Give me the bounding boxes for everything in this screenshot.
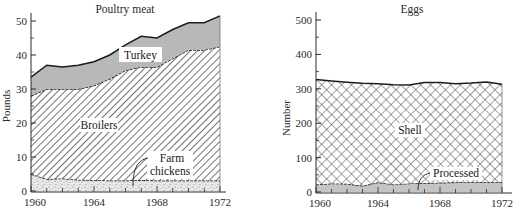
- y-tick-label: 100: [296, 152, 313, 164]
- x-tick-label: 1972: [209, 196, 231, 208]
- y-tick-label: 400: [296, 48, 313, 60]
- eggs-y-axis-label: Number: [280, 100, 292, 136]
- poultry-y-axis-label: Pounds: [0, 90, 12, 122]
- y-tick-label: 40: [16, 49, 28, 61]
- processed-label: Processed: [433, 167, 479, 179]
- y-tick-label: 500: [296, 14, 313, 26]
- y-tick-label: 50: [16, 15, 28, 27]
- poultry-meat-chart: 010203040501960196419681972 Poultry meat…: [0, 3, 231, 208]
- farm-chickens-label-line2: chickens: [150, 165, 191, 177]
- x-tick-label: 1964: [83, 196, 106, 208]
- x-tick-label: 1960: [309, 197, 332, 209]
- y-tick-label: 10: [16, 151, 28, 163]
- shell-label: Shell: [398, 124, 422, 136]
- farm-chickens-label-line1: Farm: [160, 152, 184, 164]
- x-tick-label: 1964: [367, 197, 390, 209]
- eggs-chart: 01002003004005001960196419681972 Eggs Nu…: [280, 3, 513, 209]
- y-tick-label: 300: [296, 83, 313, 95]
- x-tick-label: 1972: [491, 197, 513, 209]
- y-tick-label: 30: [16, 83, 28, 95]
- eggs-title: Eggs: [401, 3, 425, 16]
- turkey-label: Turkey: [124, 49, 157, 62]
- x-tick-label: 1960: [24, 196, 47, 208]
- y-tick-label: 200: [296, 117, 313, 129]
- charts-canvas: 010203040501960196419681972 Poultry meat…: [0, 0, 522, 214]
- x-tick-label: 1968: [429, 197, 452, 209]
- y-tick-label: 20: [16, 117, 28, 129]
- poultry-title: Poultry meat: [95, 3, 155, 16]
- broilers-label: Broilers: [80, 119, 118, 131]
- x-tick-label: 1968: [146, 196, 169, 208]
- figure: 010203040501960196419681972 Poultry meat…: [0, 0, 522, 214]
